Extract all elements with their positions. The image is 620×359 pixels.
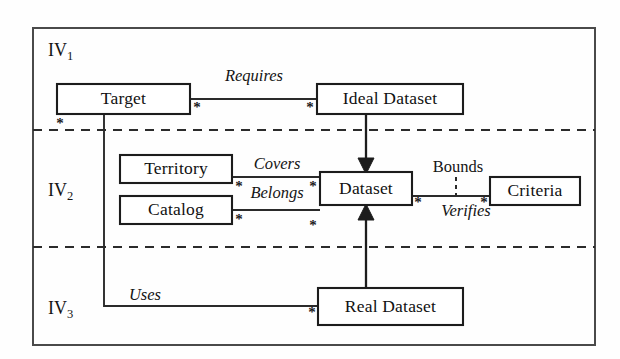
association-label-requires: Requires [224,66,283,85]
mult-criteria-verifies: * [480,194,488,210]
mult-dataset-verifies: * [414,194,422,210]
class-box-real-dataset[interactable]: Real Dataset [318,288,463,325]
band-label-iv1: IV1 [48,40,73,63]
band-label-text-iv1: IV [48,40,67,60]
mult-dataset-covers: * [309,178,317,194]
class-box-label-ideal-dataset: Ideal Dataset [343,88,437,108]
mult-target-requires: * [193,99,201,115]
band-label-subscript-iv1: 1 [67,49,73,63]
class-box-criteria[interactable]: Criteria [490,177,580,205]
association-label-bounds: Bounds [433,157,483,176]
class-box-label-criteria: Criteria [507,180,562,200]
association-label-uses: Uses [129,285,161,304]
class-box-catalog[interactable]: Catalog [120,196,232,224]
band-labels: IV1IV2IV3 [48,40,73,321]
mult-ideal-requires: * [306,99,314,115]
class-box-label-catalog: Catalog [148,199,204,219]
class-box-label-real-dataset: Real Dataset [345,296,436,316]
class-box-ideal-dataset[interactable]: Ideal Dataset [317,84,463,114]
mult-territory-covers: * [235,178,243,194]
mult-dataset-belongs: * [309,217,317,233]
band-label-text-iv2: IV [48,180,67,200]
mult-catalog-belongs: * [235,211,243,227]
class-box-label-dataset: Dataset [339,178,393,198]
class-box-target[interactable]: Target [57,84,190,114]
class-box-label-territory: Territory [144,158,208,178]
class-box-territory[interactable]: Territory [120,155,232,183]
class-box-label-target: Target [101,88,146,108]
association-label-belongs: Belongs [250,183,303,202]
band-label-subscript-iv3: 3 [67,307,73,321]
mult-target-uses: * [56,115,64,131]
class-box-dataset[interactable]: Dataset [320,172,412,205]
band-label-iv3: IV3 [48,298,73,321]
band-label-iv2: IV2 [48,180,73,203]
band-label-subscript-iv2: 2 [67,189,73,203]
arrowhead-icon-real-to-dataset [358,204,374,220]
band-label-text-iv3: IV [48,298,67,318]
uml-class-diagram: TargetIdeal DatasetTerritoryCatalogDatas… [0,0,620,359]
diagram-canvas: TargetIdeal DatasetTerritoryCatalogDatas… [0,0,620,359]
association-label-covers: Covers [254,154,301,173]
mult-realdataset-uses: * [308,304,316,320]
